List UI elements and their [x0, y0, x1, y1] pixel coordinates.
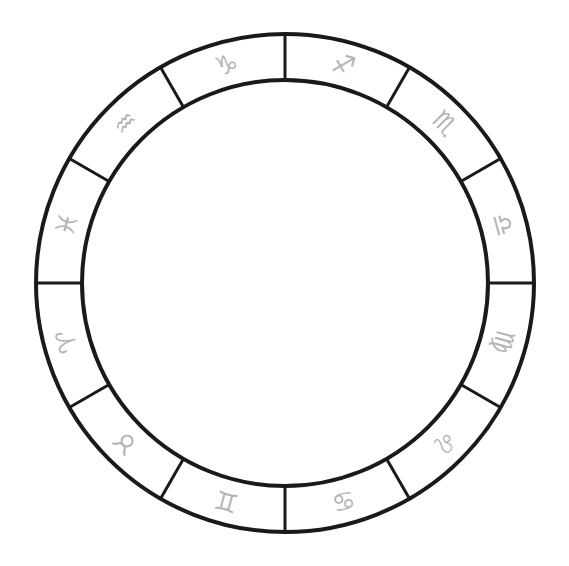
- virgo-icon: ♍︎: [486, 326, 521, 356]
- sagittarius-icon: ♐︎: [328, 47, 358, 82]
- pisces-icon: ♓︎: [49, 209, 84, 239]
- cancer-icon: ♋︎: [328, 484, 358, 519]
- zodiac-wheel: ♑︎♐︎♏︎♎︎♍︎♌︎♋︎♊︎♉︎♈︎♓︎♒︎: [0, 0, 569, 566]
- sign-divider-line: [161, 67, 184, 107]
- leo-icon: ♌︎: [426, 424, 464, 462]
- sign-divider-line: [69, 159, 109, 182]
- taurus-icon: ♉︎: [106, 424, 144, 462]
- sign-divider-line: [69, 385, 109, 408]
- aquarius-icon: ♒︎: [106, 104, 144, 142]
- sign-divider-line: [461, 385, 501, 408]
- sign-divider-line: [387, 67, 410, 107]
- inner-ring: [82, 80, 488, 486]
- sign-divider-line: [387, 459, 410, 499]
- capricorn-icon: ♑︎: [211, 47, 241, 82]
- sign-divider-line: [161, 459, 184, 499]
- gemini-icon: ♊︎: [211, 484, 241, 519]
- scorpio-icon: ♏︎: [426, 104, 464, 142]
- libra-icon: ♎︎: [486, 209, 521, 239]
- sign-divider-line: [461, 159, 501, 182]
- aries-icon: ♈︎: [49, 326, 84, 356]
